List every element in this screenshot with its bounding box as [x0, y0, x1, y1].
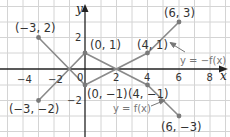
x-axis-label: x — [220, 69, 227, 83]
label-6-neg3: (6, −3) — [161, 120, 202, 134]
y-tick-2: 2 — [75, 32, 81, 43]
x-tick-6: 6 — [176, 72, 182, 83]
x-tick-8: 8 — [207, 72, 213, 83]
label-neg-f: y = −f(x) — [180, 55, 226, 66]
x-tick-0: 0 — [77, 72, 83, 83]
x-tick-4: 4 — [144, 72, 150, 83]
x-tick-neg2: −2 — [48, 74, 63, 85]
label-0-1: (0, 1) — [90, 38, 121, 52]
point-6-neg3 — [177, 114, 182, 119]
point-neg3-2 — [36, 35, 41, 40]
label-4-neg1: (4, −1) — [128, 87, 169, 101]
y-axis-label: y — [75, 2, 83, 16]
label-4-1: (4, 1) — [137, 38, 168, 52]
point-0-1 — [83, 51, 88, 56]
y-tick-neg2: −2 — [67, 95, 82, 106]
coordinate-plane: −4 −2 0 2 4 6 8 2 −2 y x (−3, 2) (0, 1) … — [0, 0, 230, 137]
point-labels: (−3, 2) (0, 1) (4, 1) (6, 3) (−3, −2) (0… — [9, 6, 202, 134]
x-tick-2: 2 — [113, 72, 119, 83]
label-f: y = f(x) — [113, 103, 151, 114]
point-6-3 — [177, 20, 182, 25]
label-neg3-2: (−3, 2) — [15, 21, 56, 35]
label-0-neg1: (0, −1) — [87, 87, 128, 101]
label-neg3-neg2: (−3, −2) — [9, 102, 59, 116]
x-tick-neg4: −4 — [17, 74, 32, 85]
label-6-3: (6, 3) — [164, 6, 195, 20]
